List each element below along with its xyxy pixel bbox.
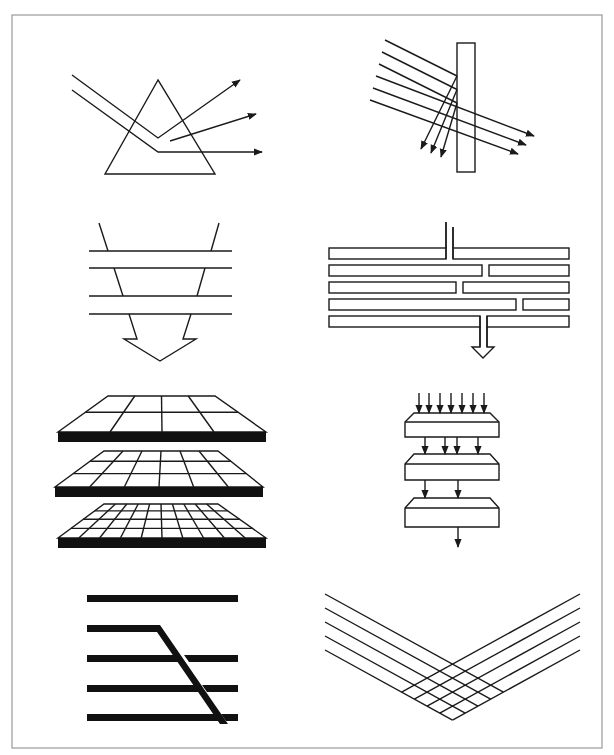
channel-bar xyxy=(329,265,482,276)
converging-line-left xyxy=(325,636,465,713)
outlet-opening xyxy=(481,315,486,329)
channel-bar xyxy=(329,316,480,327)
channel-bar xyxy=(329,299,516,310)
converging-line-right xyxy=(402,594,580,692)
converging-line-right xyxy=(427,622,580,706)
prism-triangle xyxy=(105,80,215,174)
channel-bar xyxy=(329,282,456,293)
diagram-canvas xyxy=(0,0,614,755)
converging-line-right xyxy=(453,650,581,720)
bar xyxy=(87,685,238,692)
outlet-arrow xyxy=(472,327,494,358)
channels-panel xyxy=(329,222,569,358)
converging-line-left xyxy=(325,650,453,720)
inlet-opening xyxy=(447,246,452,260)
funnel-edge xyxy=(114,268,123,296)
grid-layers-panel xyxy=(55,396,266,548)
v-lattice-panel xyxy=(325,594,580,720)
funnel-edge xyxy=(99,223,108,251)
channel-bar xyxy=(487,316,569,327)
block xyxy=(405,413,499,437)
channel-bar xyxy=(329,248,446,259)
grid-column-line xyxy=(161,504,162,538)
converging-line-left xyxy=(325,594,503,692)
reflected-ray xyxy=(441,103,457,157)
funnel-edge xyxy=(197,268,205,296)
block xyxy=(405,454,499,480)
grid-base xyxy=(55,487,263,497)
hierarchy-panel xyxy=(405,393,499,547)
converging-line-right xyxy=(440,636,580,713)
dispersed-ray-middle xyxy=(170,114,256,141)
channel-bar xyxy=(463,282,569,293)
crossing-bars-panel xyxy=(87,595,238,724)
bar xyxy=(87,655,238,662)
grid-base xyxy=(58,432,266,442)
incident-ray xyxy=(385,40,457,76)
channel-bar xyxy=(523,299,569,310)
figure-frame xyxy=(12,15,602,748)
channel-bar xyxy=(489,265,569,276)
channel-bar xyxy=(453,248,569,259)
prism-panel xyxy=(72,75,262,174)
bar xyxy=(87,595,238,602)
funnel-panel xyxy=(89,223,232,361)
grid-column-line xyxy=(162,396,163,432)
funnel-edge xyxy=(211,223,219,251)
bent-bar xyxy=(87,625,228,724)
transmitted-ray xyxy=(376,76,534,136)
block xyxy=(405,498,499,527)
transmitted-ray xyxy=(373,88,526,145)
grid-base xyxy=(58,538,266,548)
converging-line-left xyxy=(325,622,478,706)
plate-panel xyxy=(370,40,534,172)
funnel-arrow xyxy=(124,314,196,361)
